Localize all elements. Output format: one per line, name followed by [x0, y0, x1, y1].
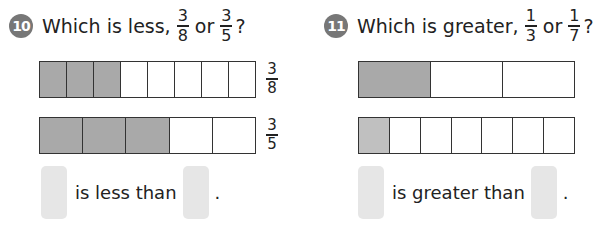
problem-number-badge: 11	[324, 14, 348, 38]
bar-cell	[121, 62, 148, 97]
bar-cell	[421, 118, 452, 153]
bar-cell-shaded	[126, 118, 169, 153]
question-11: 11 Which is greater, 1 3 or 1 7 ?	[324, 8, 594, 44]
answer-text: is greater than	[392, 182, 525, 203]
bar-cell-shaded	[40, 118, 83, 153]
bar-cell	[148, 62, 175, 97]
fraction-a: 1 3	[525, 8, 537, 44]
bar-cell	[202, 62, 229, 97]
numerator: 3	[220, 8, 232, 24]
denominator: 5	[221, 28, 231, 44]
answer-box-2[interactable]	[531, 166, 557, 219]
bar-cell-shaded	[94, 62, 121, 97]
problem-number-badge: 10	[9, 14, 33, 38]
bar-cell	[431, 62, 503, 97]
fraction-b: 3 5	[220, 8, 232, 44]
question-text: Which is greater,	[357, 15, 519, 37]
problem-11: 11 Which is greater, 1 3 or 1 7 ? is gre…	[306, 0, 612, 233]
bar-cell	[503, 62, 574, 97]
denominator: 3	[526, 28, 536, 44]
bar-cell	[170, 118, 213, 153]
fraction-bar-sevenths	[358, 117, 575, 154]
period: .	[215, 182, 221, 203]
answer-sentence-10: is less than .	[41, 166, 220, 219]
fraction-b: 1 7	[568, 8, 580, 44]
bar-label-3-8: 3 8	[266, 62, 278, 96]
bar-cell-shaded	[359, 118, 390, 153]
fraction-a: 3 8	[177, 8, 189, 44]
bar-cell	[175, 62, 202, 97]
bar-label-3-5: 3 5	[266, 118, 278, 152]
connector: or	[195, 15, 214, 37]
bar-cell-shaded	[40, 62, 67, 97]
bar-cell	[544, 118, 574, 153]
bar-cell	[452, 118, 483, 153]
answer-box-1[interactable]	[358, 166, 384, 219]
bar-cell	[390, 118, 421, 153]
question-text: Which is less,	[42, 15, 171, 37]
question-mark: ?	[583, 15, 593, 37]
numerator: 1	[568, 8, 580, 24]
numerator: 1	[525, 8, 537, 24]
bar-cell	[513, 118, 544, 153]
bar-cell-shaded	[359, 62, 431, 97]
question-10: 10 Which is less, 3 8 or 3 5 ?	[9, 8, 246, 44]
denominator: 5	[267, 137, 277, 152]
fraction-bar-thirds	[358, 61, 575, 98]
answer-box-1[interactable]	[41, 166, 67, 219]
bar-cell-shaded	[83, 118, 126, 153]
answer-sentence-11: is greater than .	[358, 166, 569, 219]
connector: or	[543, 15, 562, 37]
bar-cell-shaded	[67, 62, 94, 97]
bar-cell	[213, 118, 255, 153]
numerator: 3	[267, 118, 277, 133]
denominator: 7	[569, 28, 579, 44]
denominator: 8	[178, 28, 188, 44]
bar-cell	[482, 118, 513, 153]
answer-text: is less than	[75, 182, 177, 203]
problem-10: 10 Which is less, 3 8 or 3 5 ? 3 8	[0, 0, 306, 233]
denominator: 8	[267, 81, 277, 96]
fraction-bar-fifths	[39, 117, 256, 154]
answer-box-2[interactable]	[183, 166, 209, 219]
fraction-bar-eighths	[39, 61, 256, 98]
numerator: 3	[267, 62, 277, 77]
period: .	[563, 182, 569, 203]
numerator: 3	[177, 8, 189, 24]
question-mark: ?	[235, 15, 245, 37]
bar-cell	[229, 62, 255, 97]
